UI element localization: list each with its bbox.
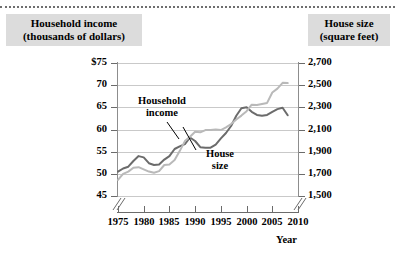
chart-root: Household income (thousands of dollars) …: [0, 0, 395, 260]
annotation-household-income-line1: Household: [129, 95, 195, 107]
x-axis-title: Year: [276, 234, 297, 245]
annotation-house-size-line2: size: [198, 160, 242, 172]
annotation-house-size-line1: House: [198, 148, 242, 160]
annotation-household-income: Household income: [129, 95, 195, 119]
annotation-house-size: House size: [198, 148, 242, 172]
annotation-leader-lines: [0, 0, 395, 260]
annotation-household-income-line2: income: [129, 107, 195, 119]
